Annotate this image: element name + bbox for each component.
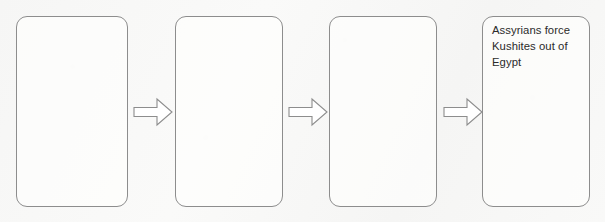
flow-arrow-1: [133, 97, 173, 127]
flow-arrow-2: [288, 97, 328, 127]
right-arrow-icon: [288, 97, 328, 127]
flow-step-box-2[interactable]: [175, 16, 283, 207]
flow-arrow-3: [443, 97, 483, 127]
flowchart-canvas: Assyrians force Kushites out of Egypt: [0, 0, 605, 222]
flow-step-label-4: Assyrians force Kushites out of Egypt: [492, 22, 583, 70]
right-arrow-icon: [443, 97, 483, 127]
right-arrow-icon: [133, 97, 173, 127]
flow-step-box-1[interactable]: [16, 16, 128, 207]
flow-step-box-4[interactable]: Assyrians force Kushites out of Egypt: [482, 16, 590, 207]
flow-step-box-3[interactable]: [329, 16, 437, 207]
